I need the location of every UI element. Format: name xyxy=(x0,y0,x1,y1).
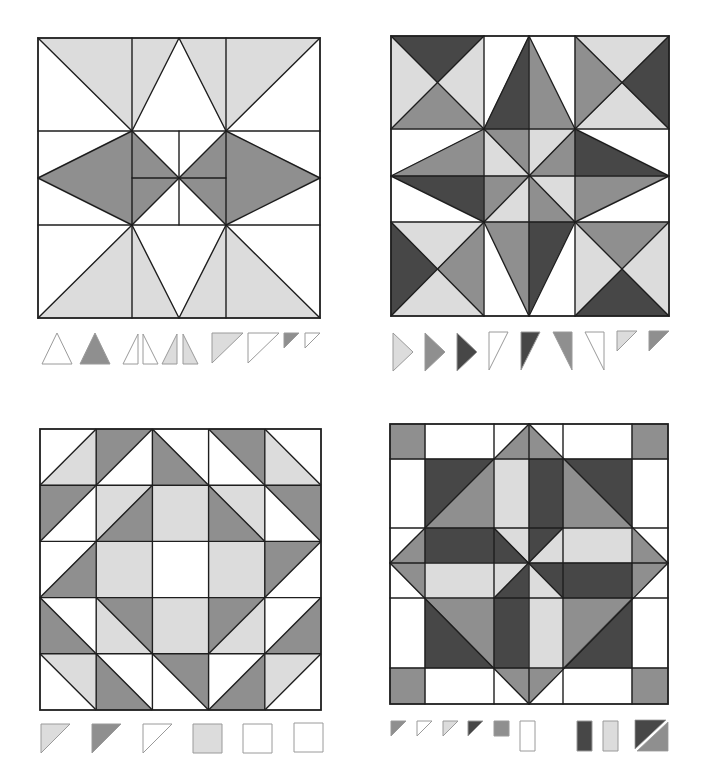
legend-piece-tri-up-white xyxy=(42,333,72,364)
patch-light xyxy=(425,563,494,598)
legend-piece-tri-tl-light xyxy=(617,331,637,351)
legend-piece-tri-up-medium xyxy=(80,333,110,364)
patch-dark xyxy=(529,459,563,528)
legend-piece-tri-tl-medium xyxy=(649,331,669,351)
legend-pieces-diamond-pinwheel xyxy=(391,720,668,751)
patch-square-light xyxy=(152,485,208,541)
legend-piece-square-dark xyxy=(577,721,592,751)
legend-piece-tri-tl-light xyxy=(212,333,243,363)
legend-piece-square-white xyxy=(520,721,535,751)
legend-piece-tri-tl-white xyxy=(417,721,432,736)
legend-piece-tri-right-medium xyxy=(425,333,445,371)
legend-piece-tri-narrow-tl-white xyxy=(489,332,508,370)
legend-piece-tri-tl-white xyxy=(305,333,320,348)
legend-piece-tri-tl-light xyxy=(443,721,458,736)
legend-piece-tri-tl-light xyxy=(41,724,70,753)
legend-piece-tri-tl-medium xyxy=(391,721,406,736)
patch-light xyxy=(563,528,632,563)
patch-square-light xyxy=(96,541,152,597)
quilt-block-pinwheel-star xyxy=(391,36,669,316)
patch-dark xyxy=(425,528,494,563)
legend-piece-tri-tall-right-light xyxy=(162,334,177,364)
legend-piece-tri-tl-white xyxy=(248,333,279,363)
legend-piece-tri-tl-white xyxy=(143,724,172,753)
quilt-block-star-diamond xyxy=(38,38,320,318)
legend-pieces-star-diamond xyxy=(42,333,320,364)
patch-light xyxy=(529,598,563,668)
legend-piece-tri-tl-medium xyxy=(284,333,299,348)
legend-piece-tri-right-dark xyxy=(457,333,477,371)
patch-medium xyxy=(390,668,425,704)
patch-medium xyxy=(390,424,425,459)
legend-piece-square-white xyxy=(294,723,323,752)
patch-light xyxy=(494,459,529,528)
patch-square-white xyxy=(152,541,208,597)
legend-piece-square-light xyxy=(193,724,222,753)
patch-dark xyxy=(494,598,529,668)
patch-square-light xyxy=(152,598,208,654)
legend-pieces-ohio-star-variant xyxy=(41,723,323,753)
legend-piece-square-light xyxy=(603,721,618,751)
patch-medium xyxy=(632,424,668,459)
legend-piece-tri-narrow-tl-dark xyxy=(521,332,540,370)
legend-piece-square-white xyxy=(243,724,272,753)
legend-piece-square-medium xyxy=(494,721,509,736)
patch-medium xyxy=(632,668,668,704)
legend-piece-tri-narrow-tr-white xyxy=(585,332,604,370)
patch-dark xyxy=(563,563,632,598)
quilt-block-ohio-star-variant xyxy=(40,429,321,710)
legend-piece-tri-right-light xyxy=(393,333,413,371)
legend-piece-tri-tl-medium xyxy=(92,724,121,753)
quilt-diagram-canvas xyxy=(0,0,705,777)
quilt-block-diamond-pinwheel xyxy=(390,424,668,704)
legend-piece-tri-tall-left-white xyxy=(143,334,158,364)
legend-piece-tri-tall-right-white xyxy=(123,334,138,364)
patch-square-light xyxy=(209,541,265,597)
legend-piece-tri-narrow-tr-medium xyxy=(553,332,572,370)
legend-piece-tri-tall-left-light xyxy=(183,334,198,364)
legend-piece-tri-tl-dark xyxy=(468,721,483,736)
legend-pieces-pinwheel-star xyxy=(393,331,669,371)
